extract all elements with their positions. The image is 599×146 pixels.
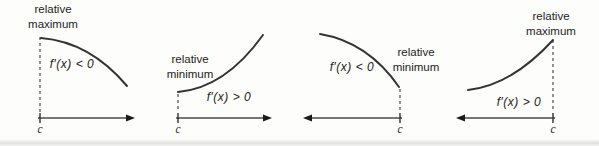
panel1-arrowhead-right-icon bbox=[126, 114, 135, 121]
panel1-extremum-label: relative maximum bbox=[28, 2, 78, 32]
panel3-extremum-label-line1: relative bbox=[393, 45, 440, 60]
panel4-extremum-label: relative maximum bbox=[526, 9, 576, 39]
panel1-c-label: c bbox=[37, 123, 42, 135]
panel2-arrowhead-right-icon bbox=[263, 114, 272, 121]
figure-canvas bbox=[0, 0, 599, 146]
panel4-arrowhead-left-icon bbox=[456, 114, 465, 121]
panel4-c-label: c bbox=[550, 123, 555, 135]
panel4-curve bbox=[468, 40, 553, 90]
panel3-extremum-label-line2: minimum bbox=[393, 60, 440, 75]
panel2-extremum-label-line2: minimum bbox=[167, 67, 214, 82]
panel4-extremum-label-line1: relative bbox=[526, 9, 576, 24]
panel2-extremum-label: relative minimum bbox=[167, 52, 214, 82]
panel4-derivative-label: f′(x) > 0 bbox=[497, 95, 541, 109]
page-edge-shadow bbox=[0, 139, 599, 146]
panel1-extremum-label-line1: relative bbox=[28, 2, 78, 17]
first-derivative-test-figure: relative maximum f′(x) < 0 c relative mi… bbox=[0, 0, 599, 146]
panel3-c-label: c bbox=[397, 123, 402, 135]
panel2-c-label: c bbox=[175, 123, 180, 135]
panel2-derivative-label: f′(x) > 0 bbox=[207, 90, 251, 104]
panel1-extremum-label-line2: maximum bbox=[28, 17, 78, 32]
panel4-extremum-label-line2: maximum bbox=[526, 24, 576, 39]
panel2-extremum-label-line1: relative bbox=[167, 52, 214, 67]
panel3-extremum-label: relative minimum bbox=[393, 45, 440, 75]
panel1-derivative-label: f′(x) < 0 bbox=[50, 57, 94, 71]
panel3-arrowhead-left-icon bbox=[303, 114, 312, 121]
panel3-derivative-label: f′(x) < 0 bbox=[330, 60, 374, 74]
